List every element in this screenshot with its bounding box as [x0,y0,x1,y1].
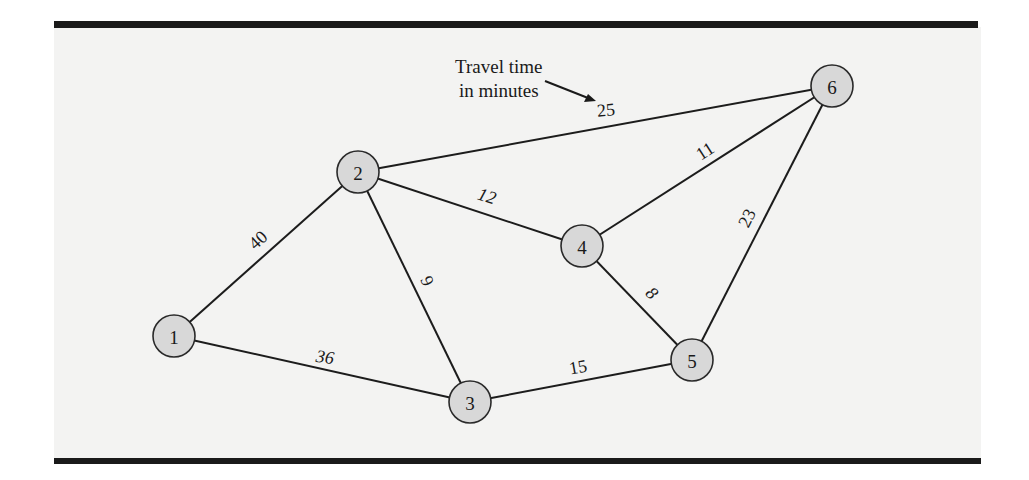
node-label: 4 [577,237,587,258]
node-label: 5 [687,351,697,372]
network-diagram: 40 36 6 12 25 15 8 11 23 1 2 3 4 5 [0,0,1029,480]
node-2: 2 [337,151,379,193]
node-label: 3 [465,393,475,414]
node-label: 6 [827,77,837,98]
top-rule [54,21,978,28]
node-label: 1 [169,327,179,348]
annotation-line-2: in minutes [459,80,539,101]
edge-weight-2-6: 25 [596,99,616,120]
edge-weight-3-5: 15 [567,356,588,379]
node-6: 6 [811,65,853,107]
annotation-line-1: Travel time [455,56,542,77]
node-3: 3 [449,381,491,423]
node-4: 4 [561,225,603,267]
node-label: 2 [353,163,363,184]
node-5: 5 [671,339,713,381]
node-1: 1 [153,315,195,357]
bottom-rule [54,458,981,464]
edge-weight-1-3: 36 [314,346,336,368]
